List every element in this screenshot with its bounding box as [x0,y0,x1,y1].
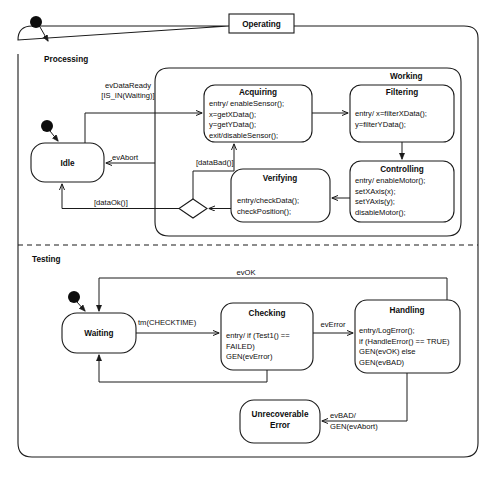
state-checking-body-2: GEN(evError) [226,352,273,361]
state-filtering-name: Filtering [386,88,418,97]
transition-everror-label: evError [321,320,346,329]
diagram-svg: Operating Processing Testing Working Idl… [0,0,496,480]
region-label-processing: Processing [44,55,88,64]
state-acquiring-name: Acquiring [239,88,277,97]
state-unrecoverable-error[interactable]: Unrecoverable Error [240,400,320,443]
state-idle[interactable]: Idle [31,143,104,182]
state-acquiring-body-2: y=getYData(); [209,120,256,129]
state-handling-body-3: GEN(evBAD) [359,358,405,367]
state-controlling-body-1: setXAxis(x); [355,187,396,196]
state-handling-body-0: entry/LogError(); [359,326,415,335]
working-label: Working [390,72,423,81]
state-controlling-body-2: setYAxis(y); [355,197,395,206]
transition-evbad[interactable]: evBAD/ GEN(evAbort) [322,373,407,431]
transition-checktime[interactable]: tm(CHECKTIME) [136,318,219,333]
state-verifying-body-1: checkPosition(); [237,207,291,216]
state-filtering-body-1: y=filterYData(); [355,120,406,129]
state-unrecoverable-error-name: Unrecoverable [252,410,309,419]
state-checking-body-0: entry/ if (Test1() == [226,331,290,340]
state-acquiring-body-0: entry/ enableSensor(); [209,99,284,108]
state-verifying-name: Verifying [263,174,298,183]
state-checking-body-1: FAILED) [226,342,255,351]
transition-checktime-label: tm(CHECKTIME) [138,318,197,327]
state-acquiring-body-1: x=getXData(); [209,110,256,119]
state-verifying[interactable]: Verifying entry/checkData(); checkPositi… [231,169,330,222]
transition-dataok[interactable]: [dataOk()] [62,184,179,209]
state-waiting[interactable]: Waiting [62,313,136,353]
initial-state-testing [68,291,85,311]
initial-state-operating [30,16,48,41]
state-controlling-body-3: disableMotor(); [355,208,406,217]
state-handling-body-2: GEN(evOK) else [359,347,416,356]
state-controlling[interactable]: Controlling entry/ enableMotor(); setXAx… [350,161,454,222]
choice-pseudostate-verify[interactable] [179,199,207,218]
state-waiting-name: Waiting [84,329,113,338]
transition-dataok-label: [dataOk()] [94,198,128,207]
state-checking-name: Checking [249,309,286,318]
state-idle-name: Idle [60,159,75,168]
state-handling-body-1: if (HandleError() == TRUE) [359,337,450,346]
transition-evdataready-label1: evDataReady [105,81,151,90]
transition-evbad-label1: evBAD/ [330,411,357,420]
state-controlling-body-0: entry/ enableMotor(); [355,176,425,185]
transition-databad[interactable]: [dataBad()] [193,144,234,199]
state-filtering[interactable]: Filtering entry/ x=filterXData(); y=filt… [350,85,454,142]
transition-evbad-label2: GEN(evAbort) [330,422,378,431]
transition-evdataready-label2: [IS_IN(Waiting)] [101,91,154,100]
state-filtering-body-0: entry/ x=filterXData(); [355,109,427,118]
state-diagram-canvas: Operating Processing Testing Working Idl… [0,0,496,480]
state-handling-name: Handling [389,306,424,315]
state-verifying-body-0: entry/checkData(); [237,196,299,205]
state-acquiring-body-3: exit/disableSensor(); [209,131,278,140]
transition-evok-label: evOK [237,268,256,277]
transition-everror[interactable]: evError [313,320,353,333]
transition-evdataready[interactable]: evDataReady [IS_IN(Waiting)] [85,81,202,143]
transition-databad-label: [dataBad()] [196,158,234,167]
initial-state-processing [41,120,58,141]
region-label-testing: Testing [32,255,61,264]
state-unrecoverable-error-name2: Error [270,421,291,430]
state-handling[interactable]: Handling entry/LogError(); if (HandleErr… [355,300,460,373]
state-controlling-name: Controlling [380,165,424,174]
state-acquiring[interactable]: Acquiring entry/ enableSensor(); x=getXD… [204,85,312,142]
state-checking[interactable]: Checking entry/ if (Test1() == FAILED) G… [221,303,313,370]
operating-title-label: Operating [242,20,281,29]
transition-evabort-label: evAbort [112,153,139,162]
transition-evabort[interactable]: evAbort [106,153,155,163]
